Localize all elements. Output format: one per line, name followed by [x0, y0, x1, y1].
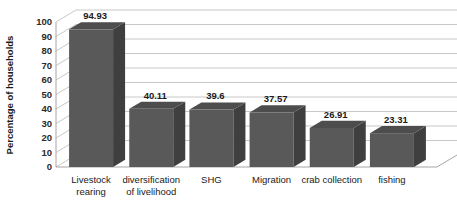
bar-side-face	[113, 22, 125, 167]
y-axis-tick-label: 60	[41, 74, 52, 85]
y-axis-tick-label: 20	[41, 132, 52, 143]
bar	[310, 121, 366, 167]
bar-value-label: 39.6	[206, 90, 225, 101]
x-axis-category-label: Livestock	[71, 174, 111, 185]
bar	[69, 22, 125, 167]
bar-front-face	[129, 109, 173, 167]
y-axis-tick-label: 100	[36, 16, 52, 27]
bar-side-face	[233, 102, 245, 167]
bar-side-face	[414, 126, 426, 167]
y-axis-tick-label: 40	[41, 103, 52, 114]
x-axis-category-label: of livelihood	[126, 186, 176, 197]
x-axis-category-label: fishing	[378, 174, 405, 185]
x-axis-category-label: rearing	[76, 186, 106, 197]
bar-value-label: 40.11	[144, 90, 168, 101]
bar-front-face	[189, 110, 233, 167]
bar	[250, 105, 306, 167]
bar	[129, 102, 185, 167]
chart-canvas: 0102030405060708090100 Percentage of hou…	[0, 0, 457, 208]
y-axis-tick-label: 90	[41, 31, 52, 42]
y-axis-tick-label: 10	[41, 147, 52, 158]
bar-side-face	[354, 121, 366, 167]
y-axis-title: Percentage of households	[4, 36, 15, 155]
bar-front-face	[250, 113, 294, 167]
bar-value-label: 23.31	[384, 114, 408, 125]
y-axis-tick-label: 30	[41, 118, 52, 129]
bar-front-face	[310, 128, 354, 167]
y-axis-tick-label: 80	[41, 45, 52, 56]
bar-front-face	[69, 29, 113, 167]
y-axis-tick-label: 0	[47, 161, 52, 172]
y-axis-tick-label: 70	[41, 60, 52, 71]
bar	[189, 102, 245, 167]
bar-chart: 0102030405060708090100 Percentage of hou…	[0, 0, 457, 208]
bar-value-label: 37.57	[264, 93, 288, 104]
y-axis-tick-label: 50	[41, 89, 52, 100]
bar-value-label: 26.91	[324, 109, 348, 120]
bar-value-label: 94.93	[83, 10, 107, 21]
bar-side-face	[173, 102, 185, 167]
x-axis-category-label: SHG	[201, 174, 222, 185]
x-axis-category-label: diversification	[122, 174, 180, 185]
bar-side-face	[294, 105, 306, 167]
x-axis-category-label: crab collection	[301, 174, 362, 185]
bar	[370, 126, 426, 167]
bar-front-face	[370, 133, 414, 167]
x-axis-category-label: Migration	[252, 174, 291, 185]
